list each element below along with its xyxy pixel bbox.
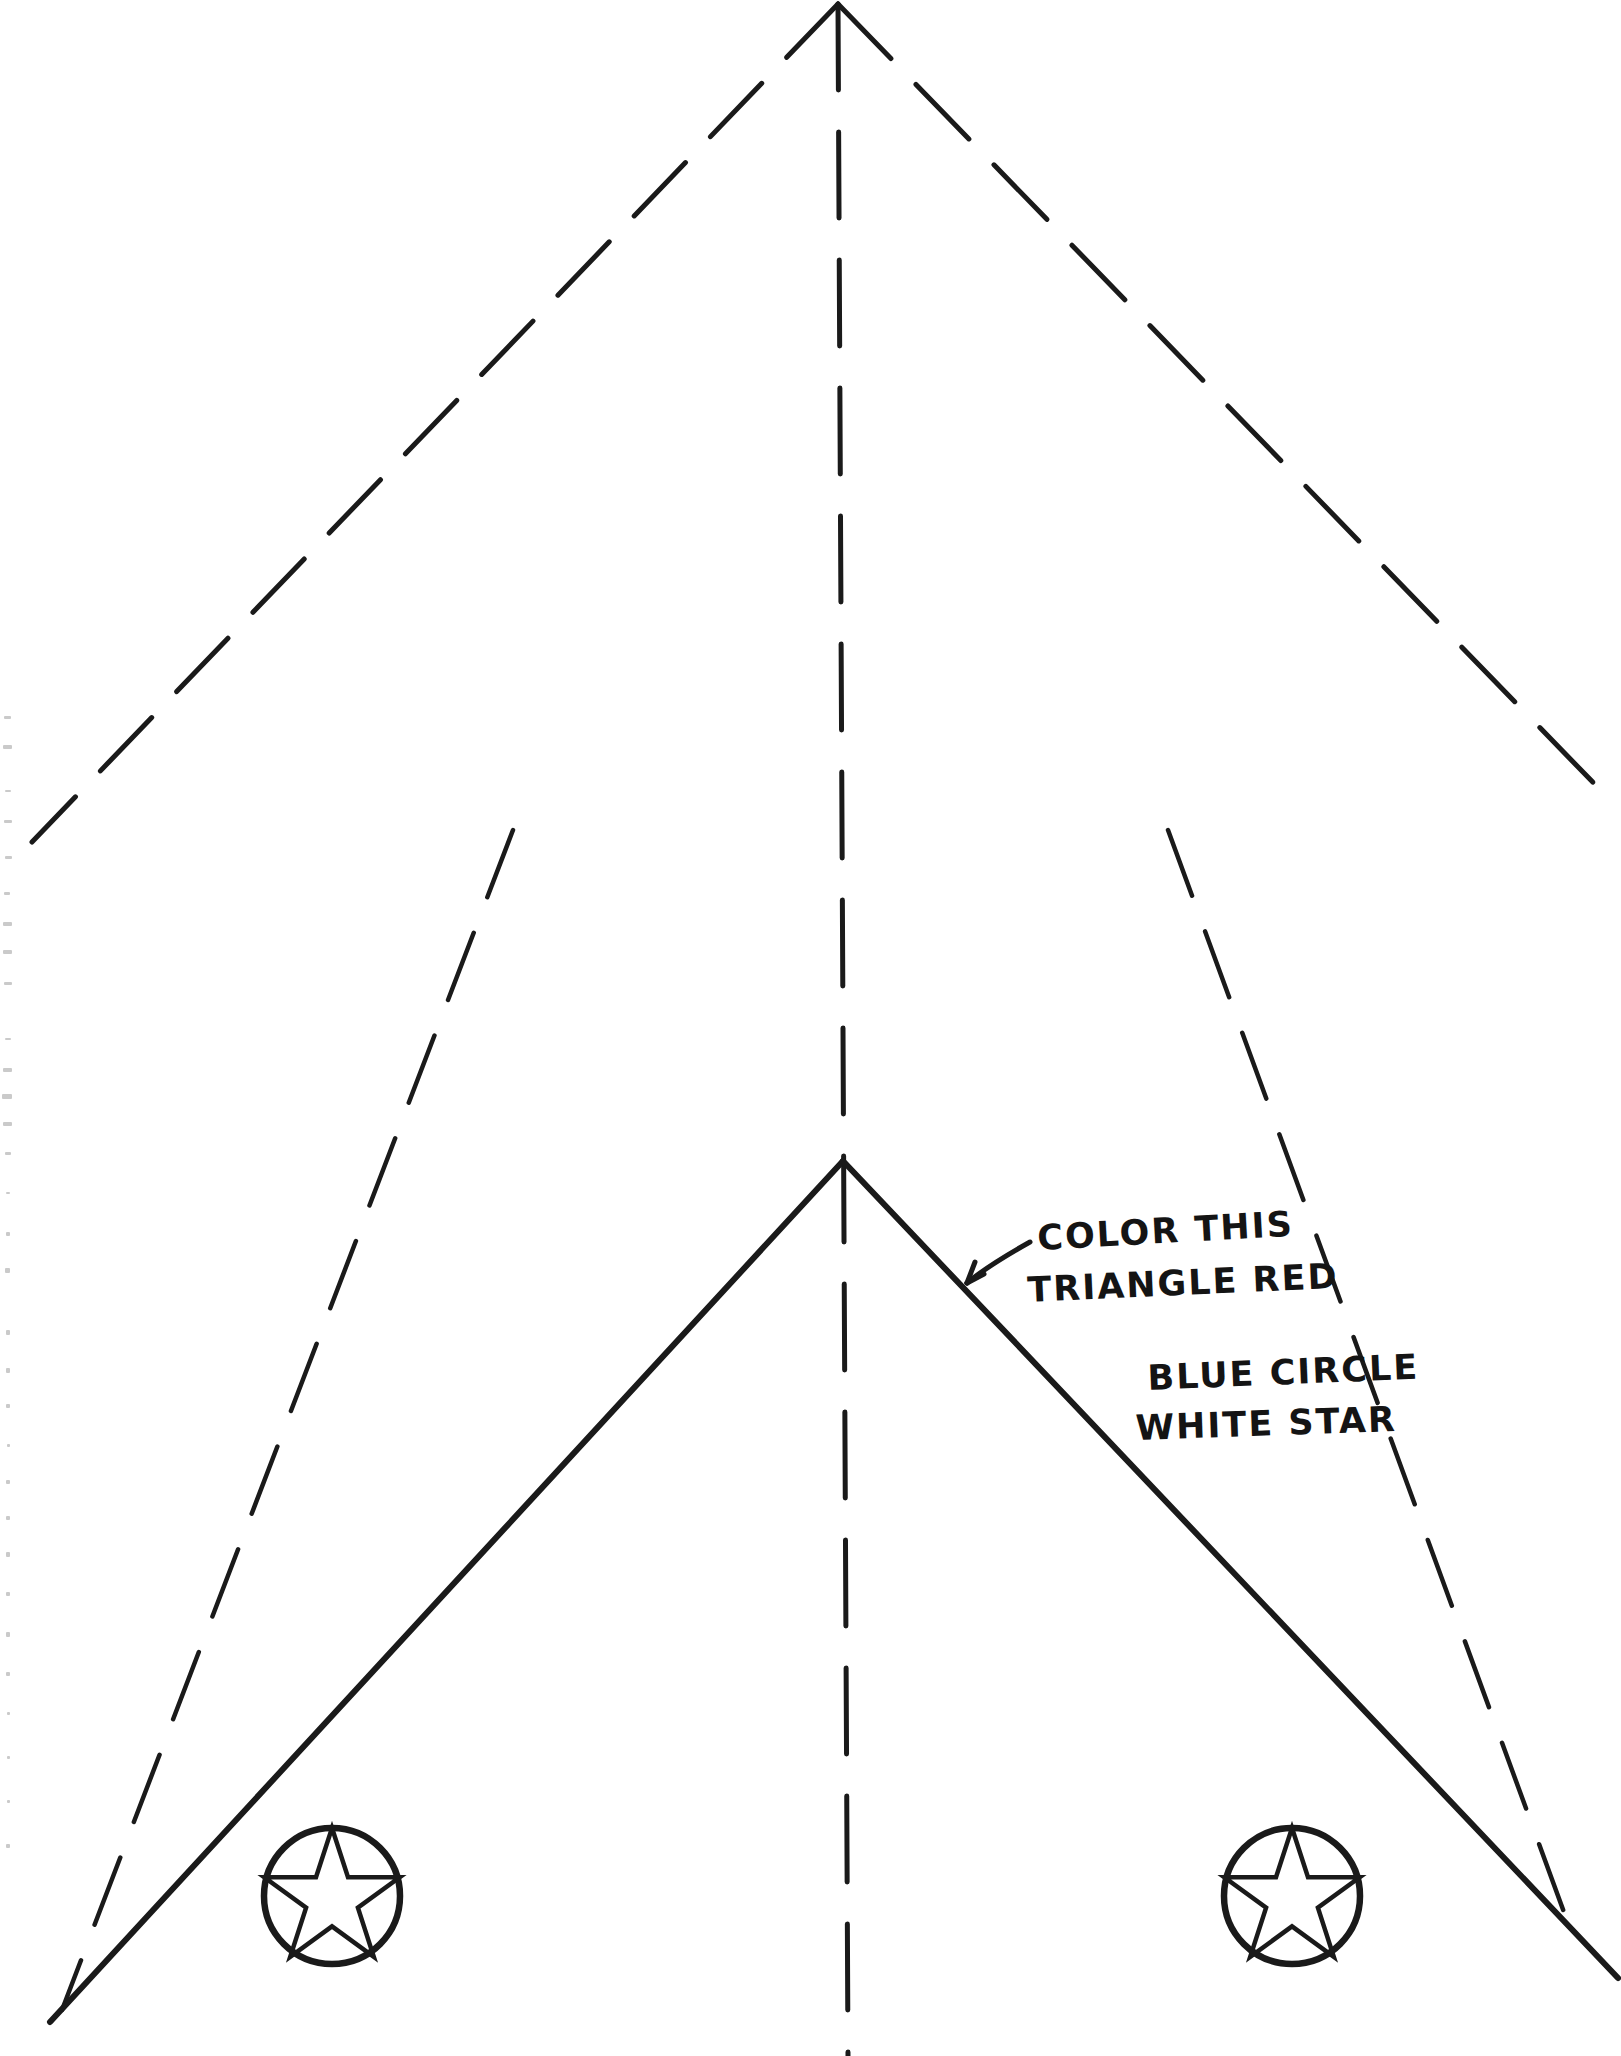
worksheet-page: COLOR THIS TRIANGLE RED BLUE CIRCLE WHIT… <box>0 0 1621 2056</box>
paper-background <box>0 0 1621 2056</box>
drawing-canvas: COLOR THIS TRIANGLE RED BLUE CIRCLE WHIT… <box>0 0 1621 2056</box>
